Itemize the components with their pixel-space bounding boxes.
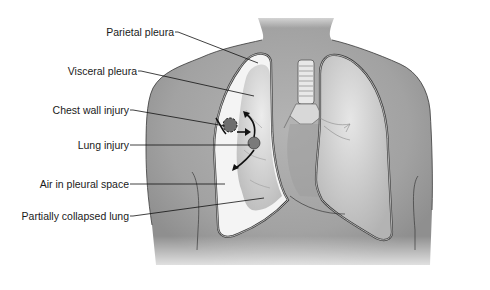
label-parietal-pleura: Parietal pleura [106,26,174,38]
pneumothorax-diagram [0,0,490,290]
label-lung-injury: Lung injury [78,139,129,151]
lung-injury-marker [248,137,260,149]
label-partially-collapsed-lung: Partially collapsed lung [22,210,129,222]
label-visceral-pleura: Visceral pleura [68,65,137,77]
label-chest-wall-injury: Chest wall injury [53,104,129,116]
label-air-in-pleural-space: Air in pleural space [40,178,129,190]
